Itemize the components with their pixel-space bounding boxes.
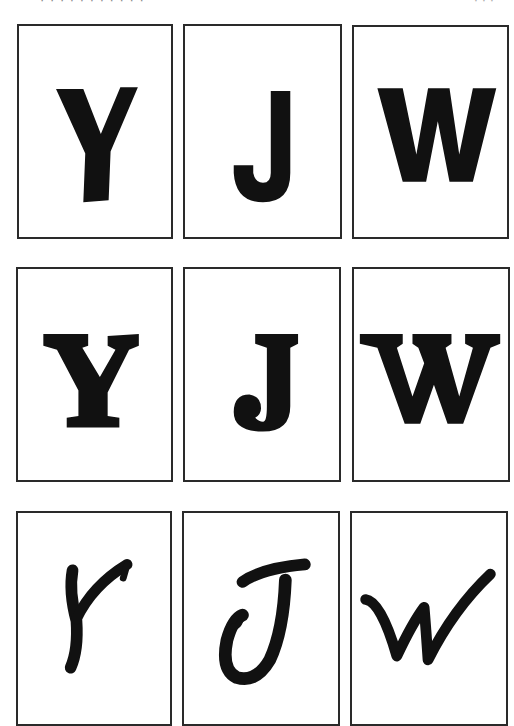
letter-j-serif-glyph (185, 269, 339, 480)
cropped-header-text: · · · · · · · · · · · (40, 0, 145, 7)
card-sans-y (17, 24, 173, 239)
cropped-header-text-right: · · · (474, 0, 494, 7)
letter-w-sans-glyph (354, 27, 507, 237)
card-script-j (182, 511, 340, 726)
letter-w-script-glyph (352, 513, 506, 724)
card-serif-y (16, 267, 173, 482)
letter-j-sans-glyph (185, 26, 340, 237)
card-script-y (16, 511, 172, 726)
card-serif-w (352, 267, 510, 482)
letter-y-sans-glyph (19, 26, 171, 237)
card-serif-j (183, 267, 341, 482)
card-script-w (350, 511, 508, 726)
letter-y-serif-glyph (18, 269, 171, 480)
letter-y-script-glyph (18, 513, 170, 724)
card-sans-w (352, 25, 509, 239)
letter-w-serif-glyph (354, 269, 508, 480)
letter-j-script-glyph (184, 513, 338, 724)
card-sans-j (183, 24, 342, 239)
